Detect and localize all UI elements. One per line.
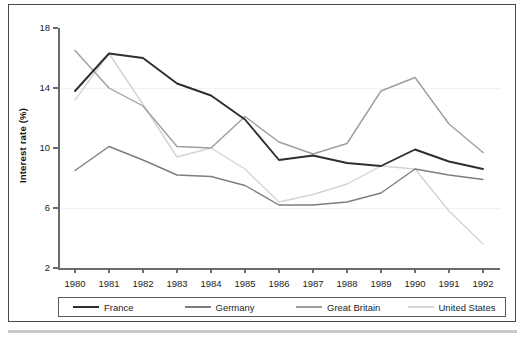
legend-item-france[interactable]: France bbox=[59, 302, 171, 313]
y-axis-tick-label: 2 bbox=[26, 262, 50, 273]
legend-label: Great Britain bbox=[327, 302, 380, 313]
x-axis-tick-label: 1986 bbox=[268, 278, 289, 289]
chart-figure: Interest rate (%) 26101418 1980198119821… bbox=[0, 0, 525, 338]
series-line-france bbox=[75, 54, 483, 170]
legend-line-swatch-icon bbox=[296, 306, 322, 308]
x-axis-tick-label: 1989 bbox=[370, 278, 391, 289]
x-axis-tick-label: 1992 bbox=[472, 278, 493, 289]
legend-item-united-states[interactable]: United States bbox=[394, 302, 506, 313]
bottom-separator-rule bbox=[8, 330, 517, 333]
x-axis-tick-label: 1982 bbox=[132, 278, 153, 289]
legend-label: France bbox=[104, 302, 134, 313]
series-line-great-britain bbox=[75, 51, 483, 155]
y-axis-tick-label: 6 bbox=[26, 202, 50, 213]
legend-line-swatch-icon bbox=[185, 306, 211, 308]
series-line-united-states bbox=[75, 54, 483, 245]
legend-item-great-britain[interactable]: Great Britain bbox=[282, 302, 394, 313]
legend-item-germany[interactable]: Germany bbox=[171, 302, 283, 313]
x-axis-tick-label: 1981 bbox=[98, 278, 119, 289]
series-line-germany bbox=[75, 147, 483, 206]
x-axis-tick-label: 1980 bbox=[64, 278, 85, 289]
series-lines bbox=[58, 28, 500, 270]
x-axis-tick-label: 1985 bbox=[234, 278, 255, 289]
y-axis-tick-label: 10 bbox=[26, 142, 50, 153]
y-axis-tick-label: 18 bbox=[26, 22, 50, 33]
chart-legend: FranceGermanyGreat BritainUnited States bbox=[58, 297, 506, 317]
y-axis-tick-label: 14 bbox=[26, 82, 50, 93]
legend-line-swatch-icon bbox=[408, 306, 434, 308]
x-axis-tick-label: 1983 bbox=[166, 278, 187, 289]
x-axis-tick-label: 1988 bbox=[336, 278, 357, 289]
x-axis-tick-label: 1990 bbox=[404, 278, 425, 289]
legend-line-swatch-icon bbox=[73, 306, 99, 308]
legend-label: Germany bbox=[216, 302, 255, 313]
plot-area: 26101418 1980198119821983198419851986198… bbox=[58, 28, 500, 270]
x-axis-tick-label: 1987 bbox=[302, 278, 323, 289]
x-axis-tick-label: 1984 bbox=[200, 278, 221, 289]
legend-label: United States bbox=[439, 302, 496, 313]
x-axis-tick-label: 1991 bbox=[438, 278, 459, 289]
